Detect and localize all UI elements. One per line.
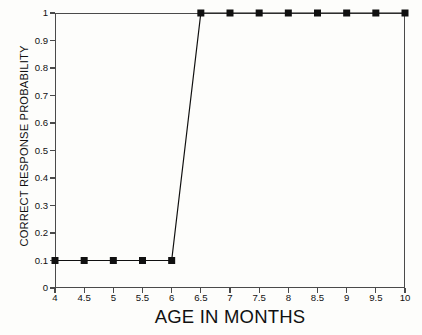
series-markers	[52, 10, 409, 265]
data-point-marker	[372, 10, 379, 17]
y-tick-label-wrap: 1	[0, 8, 48, 18]
y-tick-label-wrap: 0.9	[0, 36, 48, 46]
x-tick-label: 10	[385, 292, 422, 304]
y-tick-label: 0.7	[2, 91, 48, 101]
data-point-marker	[110, 257, 117, 264]
chart-figure: CORRECT RESPONSE PROBABILITY 00.10.20.30…	[0, 0, 422, 335]
data-point-marker	[197, 10, 204, 17]
y-tick-label-wrap: 0.7	[0, 91, 48, 101]
y-tick-label-wrap: 0.4	[0, 173, 48, 183]
x-axis-title: AGE IN MONTHS	[55, 306, 405, 328]
y-tick-label: 0.9	[2, 36, 48, 46]
y-tick-label: 0.2	[2, 228, 48, 238]
series-line	[55, 13, 405, 261]
y-tick-label-wrap: 0.1	[0, 256, 48, 266]
y-tick-label-wrap: 0.8	[0, 63, 48, 73]
y-tick-label: 0.1	[2, 256, 48, 266]
data-point-marker	[256, 10, 263, 17]
y-tick-label-wrap: 0.2	[0, 228, 48, 238]
y-tick-label: 0.3	[2, 201, 48, 211]
plot-series-layer	[55, 13, 405, 288]
data-point-marker	[81, 257, 88, 264]
data-point-marker	[285, 10, 292, 17]
data-point-marker	[314, 10, 321, 17]
data-point-marker	[52, 257, 59, 264]
data-point-marker	[139, 257, 146, 264]
data-point-marker	[227, 10, 234, 17]
data-point-marker	[402, 10, 409, 17]
y-tick-label: 1	[2, 8, 48, 18]
y-tick-label: 0.6	[2, 118, 48, 128]
y-tick-label: 0.8	[2, 63, 48, 73]
x-tick-label-wrap: 10	[385, 292, 422, 304]
y-tick-label-wrap: 0.3	[0, 201, 48, 211]
data-point-marker	[168, 257, 175, 264]
data-point-marker	[343, 10, 350, 17]
y-tick-label: 0.5	[2, 146, 48, 156]
y-tick-label-wrap: 0.5	[0, 146, 48, 156]
y-tick-label: 0.4	[2, 173, 48, 183]
y-tick-label-wrap: 0.6	[0, 118, 48, 128]
